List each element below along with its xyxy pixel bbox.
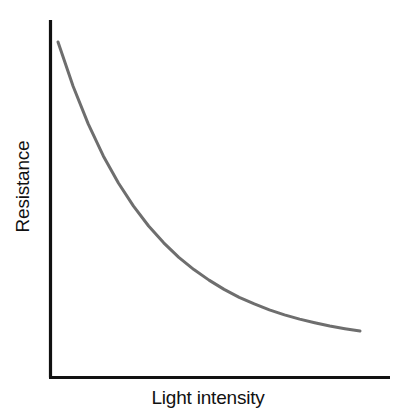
y-axis-label: Resistance [0,0,40,415]
x-axis-label: Light intensity [0,388,406,407]
plot-area [0,0,406,415]
chart-figure: Resistance Light intensity [0,0,406,415]
y-axis-label-text: Resistance [13,141,32,233]
resistance-curve [58,42,360,331]
